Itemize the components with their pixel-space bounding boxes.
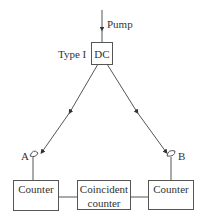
counter-left-label: Counter (14, 183, 58, 195)
detector-b-label: B (178, 150, 185, 162)
counter-right-label: Counter (149, 183, 193, 195)
source-type-label: Type I (58, 48, 86, 60)
detector-a-icon (30, 151, 38, 181)
crystal-box: DC (91, 42, 113, 65)
pump-label: Pump (107, 18, 133, 30)
detector-b-icon (167, 151, 175, 181)
coincident-counter-box: Coincident counter (77, 180, 131, 210)
counter-left-box: Counter (13, 180, 59, 211)
idler-beam-b (107, 64, 166, 152)
counter-right-box: Counter (148, 180, 194, 210)
signal-beam-a (42, 64, 98, 152)
crystal-label: DC (92, 48, 112, 60)
coincident-counter-line2: counter (78, 197, 130, 209)
coincident-counter-line1: Coincident (78, 183, 130, 195)
detector-a-label: A (21, 150, 29, 162)
